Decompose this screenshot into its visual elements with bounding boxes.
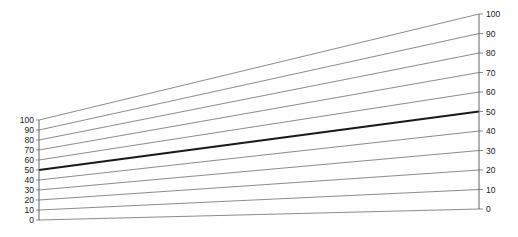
connector-line-0	[39, 209, 479, 220]
connector-line-80	[39, 53, 479, 140]
right-scale-label-90: 90	[486, 29, 496, 39]
left-scale-label-70: 70	[25, 145, 35, 155]
left-scale-label-10: 10	[25, 205, 35, 215]
right-scale-label-60: 60	[486, 87, 496, 97]
right-scale-label-100: 100	[486, 9, 500, 19]
left-scale-label-30: 30	[25, 185, 35, 195]
right-scale-labels-group: 1009080706050403020100	[486, 9, 500, 214]
right-scale-label-40: 40	[486, 126, 496, 136]
connector-line-50	[39, 112, 479, 171]
left-scale-label-80: 80	[25, 135, 35, 145]
left-scale-label-100: 100	[20, 115, 34, 125]
right-scale-label-70: 70	[486, 68, 496, 78]
tick-marks-group	[36, 14, 483, 220]
left-scale-label-90: 90	[25, 125, 35, 135]
connector-line-20	[39, 170, 479, 200]
connector-lines-group	[39, 14, 479, 220]
nomogram-chart: 1009080706050403020100 10090807060504030…	[0, 0, 518, 237]
nomogram-canvas: 1009080706050403020100 10090807060504030…	[0, 0, 518, 237]
connector-line-10	[39, 190, 479, 211]
connector-line-60	[39, 92, 479, 160]
connector-line-30	[39, 151, 479, 191]
left-scale-label-50: 50	[25, 165, 35, 175]
right-scale-label-20: 20	[486, 165, 496, 175]
right-scale-label-30: 30	[486, 146, 496, 156]
left-scale-labels-group: 1009080706050403020100	[20, 115, 34, 225]
right-scale-label-50: 50	[486, 107, 496, 117]
left-scale-label-20: 20	[25, 195, 35, 205]
left-scale-label-0: 0	[29, 215, 34, 225]
connector-line-100	[39, 14, 479, 120]
left-scale-label-60: 60	[25, 155, 35, 165]
connector-line-90	[39, 34, 479, 131]
right-scale-label-80: 80	[486, 48, 496, 58]
right-scale-label-0: 0	[486, 204, 491, 214]
left-scale-label-40: 40	[25, 175, 35, 185]
axis-lines-group	[39, 14, 479, 220]
right-scale-label-10: 10	[486, 185, 496, 195]
